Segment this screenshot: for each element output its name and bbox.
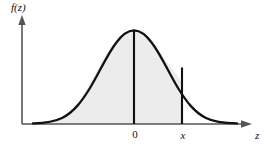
plot-area bbox=[0, 0, 273, 149]
y-axis-label: f(z) bbox=[11, 2, 26, 13]
normal-distribution-figure: f(z) z 0 x bbox=[0, 0, 273, 149]
x-tick-label-zero: 0 bbox=[128, 129, 142, 140]
x-axis-arrow-icon bbox=[241, 120, 252, 127]
y-axis-arrow-icon bbox=[18, 15, 25, 25]
shaded-area-under-curve bbox=[40, 31, 182, 125]
x-tick-label-x: x bbox=[176, 130, 190, 141]
x-axis-label: z bbox=[255, 130, 259, 141]
